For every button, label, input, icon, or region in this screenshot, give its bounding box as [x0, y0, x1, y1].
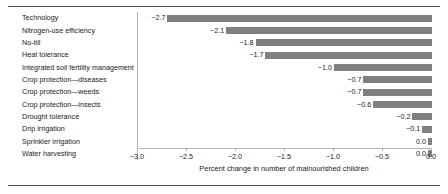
category-label: Crop protection—diseases — [22, 76, 134, 84]
x-tick-label: −1.5 — [277, 153, 291, 161]
x-tick-mark — [382, 148, 383, 151]
x-tick-label: −3.0 — [130, 153, 144, 161]
bar-row: −2.7 — [138, 15, 432, 22]
bar[interactable] — [422, 126, 432, 133]
bar-value-label: −2.7 — [151, 14, 165, 22]
bar-value-label: −1.8 — [239, 39, 253, 47]
category-label: Nitrogen-use efficiency — [22, 27, 134, 35]
bar[interactable] — [363, 76, 432, 83]
bar[interactable] — [363, 89, 432, 96]
bar-value-label: −0.6 — [357, 101, 371, 109]
category-label: No-till — [22, 39, 134, 47]
category-label: Drought tolerance — [22, 113, 134, 121]
bar[interactable] — [167, 15, 432, 22]
x-tick-mark — [284, 148, 285, 151]
top-rule — [8, 6, 440, 7]
bar[interactable] — [412, 113, 432, 120]
bar-row: −2.1 — [138, 27, 432, 34]
plot-area: −2.7−2.1−1.8−1.7−1.0−0.7−0.7−0.6−0.2−0.1… — [137, 12, 432, 160]
category-label: Crop protection—insects — [22, 101, 134, 109]
category-label: Integrated soil fertility management — [22, 64, 134, 72]
bar-value-label: −0.2 — [396, 113, 410, 121]
bar-value-label: −2.1 — [210, 27, 224, 35]
bar-value-label: −0.7 — [347, 88, 361, 96]
bar-value-label: −0.7 — [347, 76, 361, 84]
bar-value-label: −0.1 — [406, 125, 420, 133]
bar-row: −0.2 — [138, 113, 432, 120]
bar[interactable] — [334, 64, 432, 71]
plot-wrapper: TechnologyNitrogen-use efficiencyNo-till… — [0, 12, 448, 162]
x-tick-label: −0.5 — [375, 153, 389, 161]
category-label: Crop protection—weeds — [22, 88, 134, 96]
bar[interactable] — [373, 101, 432, 108]
bar-row: −1.0 — [138, 64, 432, 71]
category-axis: TechnologyNitrogen-use efficiencyNo-till… — [22, 12, 134, 160]
bar-row: −1.8 — [138, 39, 432, 46]
category-label: Heat tolerance — [22, 51, 134, 59]
x-tick-mark — [186, 148, 187, 151]
bar-row: −0.6 — [138, 101, 432, 108]
figure-container: TechnologyNitrogen-use efficiencyNo-till… — [0, 0, 448, 194]
bar-value-label: −1.0 — [318, 64, 332, 72]
category-label: Water harvesting — [22, 150, 134, 158]
x-axis-title: Percent change in number of malnourished… — [137, 164, 431, 173]
bar[interactable] — [265, 52, 432, 59]
x-axis: Percent change in number of malnourished… — [137, 148, 431, 178]
bar[interactable] — [428, 138, 432, 145]
x-tick-label: −1.0 — [326, 153, 340, 161]
bar-value-label: 0.0 — [416, 138, 426, 146]
x-tick-label: −2.5 — [179, 153, 193, 161]
bar-value-label: −1.7 — [249, 51, 263, 59]
bar-row: −0.7 — [138, 89, 432, 96]
bottom-rule — [8, 185, 440, 186]
x-tick-mark — [137, 148, 138, 151]
bar-row: −1.7 — [138, 52, 432, 59]
x-tick-label: −2.0 — [228, 153, 242, 161]
bar-row: −0.7 — [138, 76, 432, 83]
x-tick-mark — [333, 148, 334, 151]
category-label: Drip irrigation — [22, 125, 134, 133]
bar[interactable] — [226, 27, 432, 34]
bar-row: −0.1 — [138, 126, 432, 133]
x-tick-label: 0.0 — [426, 153, 436, 161]
x-tick-mark — [235, 148, 236, 151]
bar[interactable] — [256, 39, 432, 46]
category-label: Sprinkler irrigation — [22, 138, 134, 146]
x-tick-mark — [431, 148, 432, 151]
bar-row: 0.0 — [138, 138, 432, 145]
category-label: Technology — [22, 14, 134, 22]
